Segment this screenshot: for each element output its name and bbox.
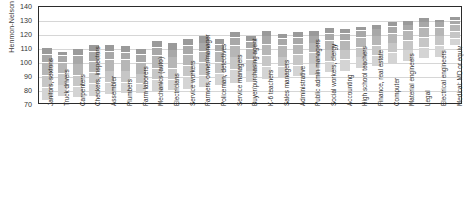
range-bar-band	[340, 60, 350, 71]
range-bar-band	[136, 49, 146, 54]
range-bar-band	[73, 56, 83, 64]
y-axis-tick: 70	[24, 101, 32, 108]
range-bar-band	[230, 32, 240, 37]
range-bar-band	[262, 56, 272, 67]
range-bar-band	[388, 34, 398, 43]
x-axis-label: Accounting	[347, 74, 353, 106]
x-axis-label: Mechanics (auto)	[158, 57, 164, 106]
range-bar	[419, 18, 429, 59]
x-axis-label: Public admin managers	[315, 39, 321, 106]
range-bar-band	[435, 28, 445, 36]
range-bar-band	[388, 27, 398, 33]
x-axis-label: Electricians	[174, 73, 180, 106]
range-bar-band	[168, 57, 178, 68]
range-bar-band	[356, 31, 366, 37]
range-bar-band	[325, 34, 335, 40]
x-axis-label: Service managers	[237, 54, 243, 106]
range-bar-band	[278, 34, 288, 39]
range-bar-band	[183, 46, 193, 54]
range-bar-band	[372, 36, 382, 45]
range-bar-band	[168, 43, 178, 49]
range-bar-band	[356, 27, 366, 31]
range-bar-band	[403, 21, 413, 25]
range-bar-band	[293, 45, 303, 54]
x-axis-label: Administrative	[300, 66, 306, 106]
x-axis-label: Truck drivers	[64, 69, 70, 106]
x-axis-label: Legal	[425, 90, 431, 106]
x-axis-label: Social workers, clergy	[331, 44, 337, 106]
x-axis-label: Carpenters	[80, 74, 86, 106]
range-bar-band	[293, 32, 303, 37]
y-axis-tick: 100	[20, 59, 32, 66]
x-axis-label: Service workers	[190, 61, 196, 106]
range-bar-band	[419, 48, 429, 59]
range-bar-band	[152, 41, 162, 47]
range-bar-band	[230, 38, 240, 46]
range-bar-band	[105, 52, 115, 60]
range-bar-band	[58, 56, 68, 62]
range-bar-band	[293, 38, 303, 44]
y-axis-tick-labels: 708090100110120130140	[0, 0, 36, 110]
range-bar-band	[340, 41, 350, 50]
range-bar-band	[450, 17, 460, 21]
x-axis-label: Plumbers	[127, 79, 133, 106]
x-axis-label: Buyer/purchasing agent	[252, 38, 258, 106]
y-axis-tick: 110	[21, 45, 32, 52]
range-bar-band	[388, 43, 398, 52]
range-bar-band	[58, 52, 68, 56]
range-bar-band	[168, 50, 178, 56]
range-bar-band	[121, 60, 131, 71]
range-bar-band	[121, 53, 131, 59]
range-bar-band	[419, 38, 429, 47]
range-bar-band	[136, 55, 146, 63]
x-axis-category-labels: Janitors, sextonsTruck driversCarpenters…	[38, 106, 462, 207]
y-axis-tick: 80	[24, 87, 32, 94]
range-bar	[388, 22, 398, 64]
range-bar-band	[262, 31, 272, 36]
x-axis-label: Finance, real estate	[378, 50, 384, 106]
range-bar-band	[293, 55, 303, 66]
range-bar-band	[121, 46, 131, 52]
range-bar-band	[450, 21, 460, 25]
y-axis-tick: 90	[24, 73, 32, 80]
range-bar-band	[388, 22, 398, 26]
x-axis-label: Material engineers	[409, 53, 415, 106]
range-bar-band	[340, 34, 350, 40]
range-bar-band	[372, 29, 382, 35]
range-bar-band	[419, 18, 429, 22]
range-bar-band	[403, 41, 413, 50]
range-bar-band	[403, 25, 413, 30]
range-bar-band	[73, 49, 83, 55]
range-bar-band	[152, 48, 162, 56]
x-axis-label: Farmers, owner/manager	[205, 34, 211, 106]
x-axis-label: Farm laborers	[143, 66, 149, 106]
range-bar-band	[450, 25, 460, 31]
x-axis-label: Medical: MD or equiv	[457, 46, 463, 106]
range-bar-band	[435, 22, 445, 27]
x-axis-label: Computer	[394, 78, 400, 106]
range-bar-band	[435, 36, 445, 45]
range-bar-band	[325, 28, 335, 33]
x-axis-label: Electrical engineers	[441, 50, 447, 106]
y-axis-tick: 140	[20, 3, 32, 10]
range-bar-band	[262, 45, 272, 56]
range-bar-band	[278, 39, 288, 45]
range-bar-band	[403, 31, 413, 40]
range-bar-band	[105, 60, 115, 71]
x-axis-label: K-6 teachers	[268, 70, 274, 106]
range-bar-band	[183, 39, 193, 45]
range-bar-band	[105, 45, 115, 51]
range-bar-band	[372, 25, 382, 29]
range-bar	[340, 29, 350, 71]
range-bar-band	[309, 31, 319, 36]
range-bar-band	[262, 36, 272, 44]
y-axis-tick: 120	[20, 31, 32, 38]
y-axis-tick: 130	[20, 17, 32, 24]
x-axis-label: High school teachers	[362, 46, 368, 106]
x-axis-label: Assembler	[111, 76, 117, 106]
range-bar-band	[450, 32, 460, 38]
range-bar-band	[450, 39, 460, 45]
x-axis-label: Janitors, sextons	[48, 58, 54, 106]
x-axis-label: Policeman, detectives	[221, 44, 227, 106]
range-bar	[450, 17, 460, 46]
